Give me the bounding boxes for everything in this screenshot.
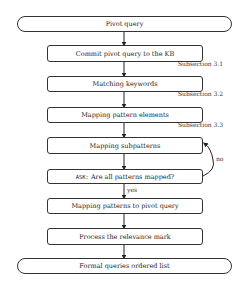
- step-label: Mapping patterns to pivot query: [71, 202, 178, 210]
- step-label: Process the relevance mark: [79, 233, 171, 241]
- annotation-subsection-3-2: Subsection 3.2: [178, 90, 223, 97]
- step-mapping-patterns-to-pivot-query: Mapping patterns to pivot query: [47, 198, 203, 214]
- decision-all-patterns-mapped: ASK: Are all patterns mapped?: [47, 169, 203, 184]
- end-label: Formal queries ordered list: [79, 262, 169, 270]
- step-label: Mapping subpatterns: [90, 142, 161, 150]
- yes-branch-label: yes: [127, 186, 137, 193]
- step-mapping-subpatterns: Mapping subpatterns: [47, 137, 203, 154]
- annotation-subsection-3-3: Subsection 3.3: [178, 121, 223, 128]
- decision-question: Are all patterns mapped?: [91, 173, 174, 181]
- decision-keyword: ASK:: [76, 174, 89, 180]
- end-terminal: Formal queries ordered list: [17, 258, 232, 274]
- start-label: Pivot query: [106, 20, 144, 28]
- step-label: Commit pivot query to the KB: [76, 50, 174, 58]
- step-label: Mapping pattern elements: [81, 111, 169, 119]
- annotation-subsection-3-1: Subsection 3.1: [178, 60, 223, 67]
- start-terminal: Pivot query: [17, 16, 232, 32]
- no-branch-label: no: [216, 155, 223, 162]
- step-process-relevance-mark: Process the relevance mark: [47, 228, 203, 245]
- step-label: Matching keywords: [93, 80, 158, 88]
